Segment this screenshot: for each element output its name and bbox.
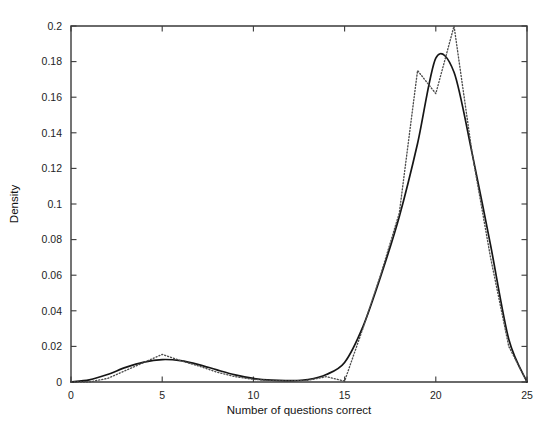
y-tick-label: 0.16 xyxy=(42,91,63,103)
y-axis-title: Density xyxy=(8,185,20,224)
x-tick-label: 5 xyxy=(159,389,165,401)
axis-group xyxy=(71,26,527,382)
y-tick-label: 0.2 xyxy=(47,20,62,32)
y-tick-label: 0.12 xyxy=(42,162,63,174)
x-tick-label: 25 xyxy=(521,389,533,401)
plot-svg: 00.020.040.060.080.10.120.140.160.180.2 … xyxy=(0,0,552,431)
y-tick-label: 0.08 xyxy=(42,233,63,245)
x-tick-label: 10 xyxy=(248,389,260,401)
y-tick-label: 0 xyxy=(56,376,62,388)
series-group xyxy=(71,26,527,382)
density-chart: 00.020.040.060.080.10.120.140.160.180.2 … xyxy=(0,0,552,431)
y-tick-label: 0.1 xyxy=(47,198,62,210)
series-line-fitted-density xyxy=(71,54,527,382)
y-tick-label: 0.18 xyxy=(42,55,63,67)
y-tick-label: 0.04 xyxy=(42,305,63,317)
y-tick-label: 0.14 xyxy=(42,127,63,139)
x-tick-label: 15 xyxy=(339,389,351,401)
y-tick-label: 0.06 xyxy=(42,269,63,281)
plot-frame xyxy=(71,26,527,382)
y-tick-label: 0.02 xyxy=(42,340,63,352)
series-line-empirical-density xyxy=(71,26,527,382)
x-axis-title: Number of questions correct xyxy=(227,404,372,416)
x-axis-ticks: 0510152025 xyxy=(68,26,533,401)
x-tick-label: 0 xyxy=(68,389,74,401)
x-tick-label: 20 xyxy=(430,389,442,401)
